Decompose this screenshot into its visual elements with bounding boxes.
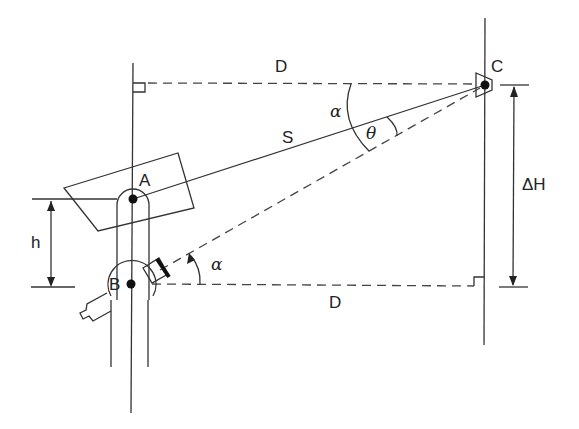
left-plumb-line [131, 63, 133, 413]
point-c-dot [481, 81, 490, 90]
label-alpha-bottom: α [211, 254, 223, 274]
h-arrow-down [47, 277, 55, 287]
dh-dimension-line [513, 87, 514, 285]
bottom-horizontal-dashed [152, 284, 474, 286]
slope-line-s [133, 86, 482, 199]
dh-arrow-down [509, 276, 517, 286]
label-a: A [139, 171, 151, 190]
telescope-eyepiece [80, 293, 111, 321]
label-c: C [491, 57, 503, 76]
h-arrow-up [47, 201, 55, 211]
label-d-bottom: D [329, 293, 341, 312]
point-b-dot [127, 280, 136, 289]
label-alpha-top: α [330, 101, 342, 121]
edm-instrument-body [64, 153, 194, 231]
label-h: h [31, 233, 40, 252]
right-angle-marker-top [133, 83, 145, 92]
right-angle-marker-bottom [474, 277, 484, 286]
surveying-diagram: D D S ΔH h A B C α θ α [0, 0, 579, 429]
point-a-dot [129, 195, 138, 204]
right-plumb-line [484, 18, 485, 345]
sight-line-dashed [160, 88, 480, 270]
telescope-objective [157, 259, 169, 277]
label-b: B [109, 275, 120, 294]
label-s: S [282, 128, 293, 147]
label-d-top: D [275, 57, 287, 76]
dh-arrow-up [510, 86, 518, 97]
top-horizontal-dashed [148, 83, 478, 84]
theta-arc [387, 117, 397, 136]
label-delta-h: ΔH [522, 175, 546, 194]
label-theta: θ [366, 123, 376, 143]
